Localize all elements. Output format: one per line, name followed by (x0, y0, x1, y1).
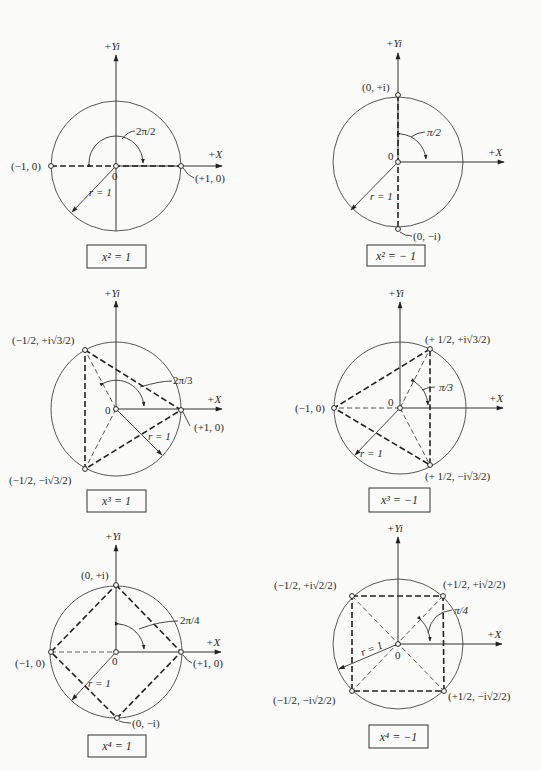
x-axis-label: +X (208, 148, 223, 160)
origin-label: 0 (112, 170, 118, 182)
x-axis-label: +X (489, 392, 504, 404)
diagram-x2-eq-1: +Yi +X 2π/2 r = 1 0 (−1, 0) (+1, 0) x² =… (11, 40, 225, 268)
point-leader (183, 168, 194, 178)
angle-leader (139, 621, 178, 629)
equation-label: x⁴ = −1 (379, 730, 418, 744)
point-leader (119, 721, 131, 723)
angle-arc (104, 380, 144, 406)
radius-label: r = 1 (88, 677, 111, 689)
angle-arc (415, 382, 428, 405)
x-axis-label: +X (488, 146, 503, 158)
root-point (332, 406, 337, 411)
diagram-x4-eq-neg1: +Yi +X π/4 r = 1 0 (−1/2, +i√2/2) (+1/2,… (273, 522, 511, 748)
root-point (428, 463, 433, 468)
origin-label: 0 (112, 655, 118, 667)
point-label: (−1/2, −i√3/2) (9, 474, 72, 487)
spoke (400, 349, 430, 408)
angle-leader (428, 610, 452, 633)
origin-point (398, 406, 403, 411)
point-label: (−1, 0) (11, 160, 41, 173)
x-axis-label: +X (206, 636, 221, 648)
angle-label: π/2 (427, 126, 442, 138)
radius-label: r = 1 (370, 190, 393, 202)
point-label: (+1/2, −i√2/2) (448, 690, 511, 703)
equation-label: x² = 1 (101, 250, 131, 264)
angle-label: 2π/2 (136, 125, 156, 137)
point-label: (0, −i) (132, 717, 160, 730)
angle-label: 2π/4 (180, 614, 200, 626)
point-label: (+1, 0) (195, 172, 225, 185)
angle-leader (122, 131, 135, 139)
root-point (179, 164, 184, 169)
point-label: (−1, 0) (295, 402, 325, 415)
origin-point (396, 642, 401, 647)
radius-label: r = 1 (360, 447, 383, 459)
point-label: (+1, 0) (194, 421, 224, 434)
angle-leader (411, 132, 425, 137)
point-label: (0, +i) (81, 569, 109, 582)
angle-arc (401, 134, 426, 159)
equation-label: x³ = −1 (380, 493, 418, 507)
diagram-x4-eq-1: +Yi +X 2π/4 r = 1 0 (0, +i) (−1, 0) (+1,… (15, 530, 223, 757)
root-point (179, 650, 184, 655)
x-axis-label: +X (207, 393, 222, 405)
y-axis-label: +Yi (104, 287, 120, 299)
point-label: (0, −i) (413, 230, 441, 243)
y-axis-label: +Yi (387, 522, 403, 534)
y-axis-label: +Yi (104, 40, 120, 52)
root-point (396, 227, 401, 232)
root-point (83, 348, 88, 353)
point-label: (0, +i) (362, 81, 390, 94)
origin-point (114, 407, 119, 412)
root-point (114, 583, 119, 588)
diagram-x3-eq-neg1: +Yi +X π/3 r = 1 0 (+ 1/2, +i√3/2) (−1, … (295, 287, 504, 512)
angle-leader (140, 381, 172, 387)
root-point (83, 467, 88, 472)
origin-label: 0 (388, 150, 394, 162)
angle-arc (119, 624, 144, 649)
origin-point (114, 164, 119, 169)
point-leader (183, 412, 190, 426)
root-point (396, 93, 401, 98)
angle-label: 2π/3 (173, 374, 193, 386)
point-leader (400, 232, 412, 236)
y-axis-label: +Yi (386, 37, 402, 49)
origin-label: 0 (395, 649, 401, 661)
angle-label: π/4 (454, 604, 469, 616)
origin-label: 0 (105, 404, 111, 416)
roots-of-unity-figure: +Yi +X 2π/2 r = 1 0 (−1, 0) (+1, 0) x² =… (0, 0, 541, 770)
root-point (441, 594, 446, 599)
radius-arrow (351, 162, 398, 210)
spoke (85, 350, 116, 409)
root-point (115, 716, 120, 721)
x-axis-label: +X (487, 628, 502, 640)
origin-point (396, 160, 401, 165)
y-axis-label: +Yi (388, 287, 404, 299)
equation-label: x² = − 1 (375, 249, 416, 263)
point-label: (−1, 0) (15, 657, 45, 670)
point-label: (−1/2, −i√2/2) (273, 694, 336, 707)
root-point (350, 594, 355, 599)
diagram-x2-eq-neg1: +Yi +X π/2 r = 1 0 (0, +i) (0, −i) x² = … (333, 37, 504, 266)
root-point (49, 164, 54, 169)
point-label: (−1/2, +i√2/2) (274, 579, 337, 592)
root-point (442, 689, 447, 694)
radius-label: r = 1 (148, 430, 171, 442)
point-leader (183, 655, 192, 663)
origin-label: 0 (388, 396, 394, 408)
origin-point (114, 650, 119, 655)
root-point (350, 689, 355, 694)
point-label: (+ 1/2, −i√3/2) (425, 470, 491, 483)
root-point (179, 408, 184, 413)
root-point (49, 650, 54, 655)
point-label: (+1/2, +i√2/2) (443, 578, 506, 591)
equation-label: x³ = 1 (101, 494, 131, 508)
point-label: (+1, 0) (193, 657, 223, 670)
point-label: (+ 1/2, +i√3/2) (425, 333, 491, 346)
y-axis-label: +Yi (105, 530, 121, 542)
equation-label: x⁴ = 1 (101, 739, 132, 753)
angle-leader (422, 387, 435, 390)
diagram-x3-eq-1: +Yi +X 2π/3 r = 1 0 (−1/2, +i√3/2) (+1, … (9, 287, 224, 512)
radius-label: r = 1 (89, 186, 112, 198)
root-point (428, 347, 433, 352)
